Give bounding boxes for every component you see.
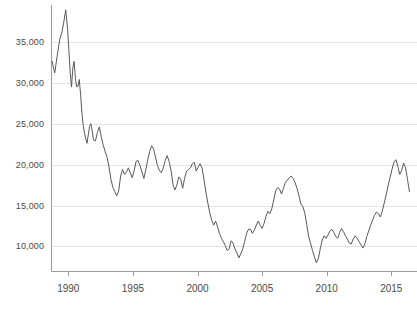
chart-plot-area [0, 0, 417, 311]
y-axis-tick-label: 25,000 [2, 119, 44, 129]
y-axis-tick-label: 30,000 [2, 78, 44, 88]
x-axis-tick-label: 2005 [242, 283, 282, 294]
gridlines [52, 43, 417, 247]
y-axis-tick-label: 10,000 [2, 241, 44, 251]
x-axis-tick-label: 1995 [113, 283, 153, 294]
axis-lines [52, 5, 417, 272]
y-axis-tick-label: 35,000 [2, 37, 44, 47]
x-axis-tick-label: 2010 [307, 283, 347, 294]
x-axis-tick-label: 1990 [48, 283, 88, 294]
data-series-line [52, 10, 409, 263]
x-axis-tick-label: 2015 [371, 283, 411, 294]
x-axis-tick-label: 2000 [178, 283, 218, 294]
line-chart: 10,00015,00020,00025,00030,00035,000 199… [0, 0, 417, 311]
y-axis-tick-label: 15,000 [2, 201, 44, 211]
y-axis-tick-label: 20,000 [2, 160, 44, 170]
